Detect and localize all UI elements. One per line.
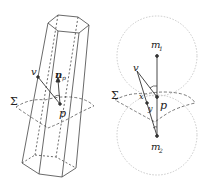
label-v-left: v	[31, 66, 37, 77]
label-sigma-left: Σ	[10, 95, 18, 108]
point-p	[156, 96, 159, 99]
label-v-right: v	[133, 62, 139, 73]
label-p-left: p	[59, 107, 66, 120]
label-x: x	[139, 92, 144, 101]
label-n-subscript-left: p	[62, 74, 66, 82]
label-p-right: p	[160, 99, 167, 112]
label-y: y	[147, 104, 153, 113]
surface-sigma-right	[115, 92, 195, 122]
point-m2	[156, 135, 159, 138]
diagram-canvas: v n p p Σ m 1 m 2 v x y p Σ	[0, 0, 206, 187]
label-m1-subscript: 1	[159, 45, 163, 52]
label-m2-subscript: 2	[158, 147, 163, 154]
point-m1	[156, 55, 159, 58]
label-sigma-right: Σ	[111, 89, 119, 102]
